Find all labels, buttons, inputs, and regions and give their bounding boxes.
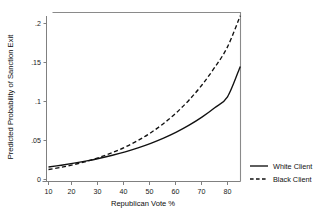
x-ticklabel: 10 [45,188,53,196]
chart-legend: White Client Black Client [250,162,312,184]
y-axis-title: Predicted Probability of Sanction Exit [6,34,15,159]
series-line-white-client [49,66,241,167]
y-ticklabel: .15 [31,59,41,67]
series-line-black-client [49,16,241,170]
x-axis-ticklabels: 10 20 30 40 50 60 70 80 [45,188,232,196]
y-ticklabel: .05 [31,137,41,145]
x-ticklabel: 60 [172,188,180,196]
x-axis-ticks [49,182,228,186]
x-axis-title: Republican Vote % [111,199,175,208]
frame-top-right [53,13,241,182]
data-series-group [49,16,241,170]
x-ticklabel: 30 [94,188,102,196]
plot-frame [53,13,241,182]
x-ticklabel: 70 [198,188,206,196]
legend-label-black-client: Black Client [273,175,312,184]
x-ticklabel: 20 [68,188,76,196]
x-ticklabel: 40 [120,188,128,196]
chart-figure: .2 .15 .1 .05 0 10 20 30 40 50 60 70 80 [0,0,324,221]
legend-label-white-client: White Client [273,162,312,171]
x-ticklabel: 80 [224,188,232,196]
y-ticklabel: 0 [37,176,41,184]
chart-svg: .2 .15 .1 .05 0 10 20 30 40 50 60 70 80 [0,0,324,221]
y-ticklabel: .1 [35,98,41,106]
y-axis-ticklabels: .2 .15 .1 .05 0 [31,20,41,184]
y-ticklabel: .2 [35,20,41,28]
x-ticklabel: 50 [146,188,154,196]
